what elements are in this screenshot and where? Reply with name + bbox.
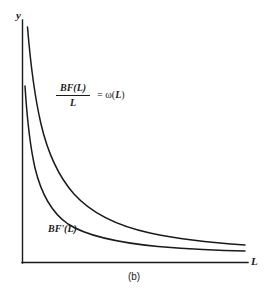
equals-sign: = (97, 89, 103, 100)
close-paren: ) (121, 89, 124, 100)
fraction-bar (56, 95, 90, 96)
omega-symbol: ω (105, 89, 112, 100)
curve-average-product (28, 27, 246, 245)
y-axis-label: y (16, 10, 21, 21)
ratio-right-hand-side: = ω(L) (97, 90, 125, 100)
ratio-denominator: L (66, 97, 80, 109)
x-axis-label: L (251, 256, 258, 267)
figure-caption: (b) (0, 272, 268, 282)
ratio-numerator: BF(L) (56, 82, 90, 94)
ratio-fraction: BF(L) L (56, 82, 90, 108)
marginal-product-label: BF'(L) (48, 224, 77, 234)
average-product-equation: BF(L) L = ω(L) (56, 82, 125, 108)
figure-container: y L BF(L) L = ω(L) BF'(L) (b) (0, 0, 268, 293)
plot-svg (0, 0, 268, 293)
